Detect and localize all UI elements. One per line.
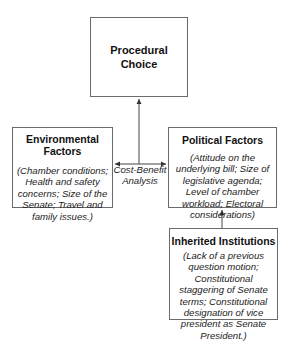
procedural-choice-title: Procedural Choice (110, 43, 167, 71)
procedural-choice-box: Procedural Choice (90, 17, 188, 97)
political-factors-body: (Attitude on the underlying bill; Size o… (169, 152, 276, 220)
environmental-factors-title: Environmental Factors (13, 133, 112, 157)
political-factors-box: Political Factors (Attitude on the under… (168, 127, 277, 208)
cost-benefit-analysis-label: Cost-Benefit Analysis (112, 164, 168, 187)
inherited-institutions-title: Inherited Institutions (170, 235, 277, 247)
inherited-institutions-box: Inherited Institutions (Lack of a previo… (169, 228, 278, 320)
cba-line-1: Cost-Benefit (114, 164, 167, 175)
cba-line-2: Analysis (122, 175, 158, 186)
inherited-institutions-body: (Lack of a previous question motion; Con… (170, 250, 277, 341)
environmental-factors-body: (Chamber conditions; Health and safety c… (13, 165, 112, 222)
environmental-factors-box: Environmental Factors (Chamber condition… (12, 127, 113, 208)
title-line-2: Choice (121, 58, 158, 70)
title-line-1: Procedural (110, 44, 167, 56)
political-factors-title: Political Factors (169, 134, 276, 146)
